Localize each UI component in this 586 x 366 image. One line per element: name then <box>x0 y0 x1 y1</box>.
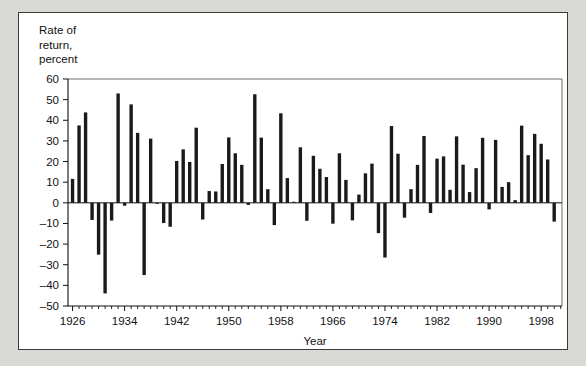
y-axis-tick-label: –20 <box>40 238 59 250</box>
bar <box>188 162 191 203</box>
bar <box>403 203 406 218</box>
y-axis-tick-label: –10 <box>40 217 59 229</box>
bar <box>442 156 445 202</box>
bar <box>299 147 302 203</box>
bar <box>266 189 269 203</box>
bar <box>305 203 308 221</box>
bar <box>429 203 432 213</box>
bar <box>129 104 132 202</box>
bar <box>103 203 106 294</box>
bar <box>221 164 224 203</box>
plot-area: –50–40–30–20–100102030405060192619341942… <box>19 13 569 351</box>
bar <box>155 203 158 204</box>
bar <box>84 112 87 202</box>
y-axis-tick-label: 10 <box>46 176 59 188</box>
bar <box>175 161 178 203</box>
x-axis-tick-label: 1990 <box>476 315 502 327</box>
x-axis-tick-label: 1974 <box>372 315 398 327</box>
bar <box>234 153 237 203</box>
x-axis-tick-label: 1942 <box>164 315 190 327</box>
bar <box>149 139 152 203</box>
y-axis-tick-label: –50 <box>40 300 59 312</box>
bar <box>116 93 119 202</box>
bar <box>208 191 211 203</box>
y-axis-tick-label: 50 <box>46 94 59 106</box>
y-axis-tick-label: 30 <box>46 135 59 147</box>
x-axis-tick-label: 1934 <box>112 315 138 327</box>
bar <box>494 140 497 203</box>
bar <box>168 203 171 227</box>
bar <box>533 134 536 203</box>
x-axis-tick-label: 1966 <box>320 315 346 327</box>
y-axis-tick-label: –40 <box>40 279 59 291</box>
x-axis-tick-label: 1926 <box>60 315 86 327</box>
chart-figure-panel: Rate of return, percent –50–40–30–20–100… <box>18 12 568 350</box>
x-axis-title: Year <box>303 335 326 347</box>
bar <box>390 126 393 203</box>
bar <box>396 154 399 203</box>
bar <box>383 203 386 258</box>
y-axis-tick-label: 0 <box>53 197 59 209</box>
bar <box>90 203 93 220</box>
bar <box>195 128 198 203</box>
bar <box>481 138 484 203</box>
bar <box>142 203 145 275</box>
bar <box>162 203 165 223</box>
bar-chart-svg: –50–40–30–20–100102030405060192619341942… <box>19 13 569 351</box>
bar <box>526 155 529 203</box>
bar <box>286 178 289 203</box>
y-axis-tick-label: –30 <box>40 259 59 271</box>
bar <box>364 173 367 203</box>
x-axis-tick-label: 1958 <box>268 315 294 327</box>
bar <box>312 156 315 203</box>
bar <box>507 182 510 203</box>
bar <box>455 136 458 202</box>
bar <box>260 138 263 203</box>
bar <box>338 153 341 203</box>
bar <box>513 200 516 203</box>
y-axis-tick-label: 60 <box>46 73 59 85</box>
y-axis-tick-label: 20 <box>46 156 59 168</box>
bar <box>227 137 230 202</box>
x-axis-tick-label: 1998 <box>528 315 554 327</box>
bar <box>253 94 256 203</box>
bar <box>279 113 282 203</box>
bar <box>344 180 347 203</box>
bar <box>435 159 438 203</box>
bar <box>487 203 490 210</box>
x-axis-tick-label: 1982 <box>424 315 450 327</box>
bar <box>370 164 373 203</box>
bar <box>331 203 334 224</box>
x-axis-tick-label: 1950 <box>216 315 242 327</box>
bar <box>110 203 113 221</box>
y-axis-tick-label: 40 <box>46 114 59 126</box>
bar <box>351 203 354 221</box>
bar <box>123 203 126 206</box>
bar <box>77 125 80 202</box>
bar <box>468 192 471 203</box>
bar <box>240 165 243 203</box>
bar <box>357 195 360 203</box>
bar <box>448 190 451 203</box>
bar <box>71 179 74 203</box>
bar <box>422 136 425 203</box>
bar <box>416 165 419 203</box>
bar <box>520 126 523 203</box>
bar <box>461 165 464 203</box>
bar <box>247 203 250 205</box>
bar <box>500 187 503 203</box>
bar <box>97 203 100 255</box>
bar <box>409 189 412 203</box>
bar <box>474 168 477 203</box>
bar <box>539 144 542 203</box>
bar <box>273 203 276 225</box>
bar <box>377 203 380 233</box>
bar <box>546 159 549 202</box>
bar <box>201 203 204 220</box>
bar <box>182 149 185 202</box>
bar <box>214 191 217 202</box>
bar <box>292 202 295 203</box>
bar <box>552 203 555 222</box>
bar <box>325 177 328 203</box>
bar <box>318 169 321 203</box>
